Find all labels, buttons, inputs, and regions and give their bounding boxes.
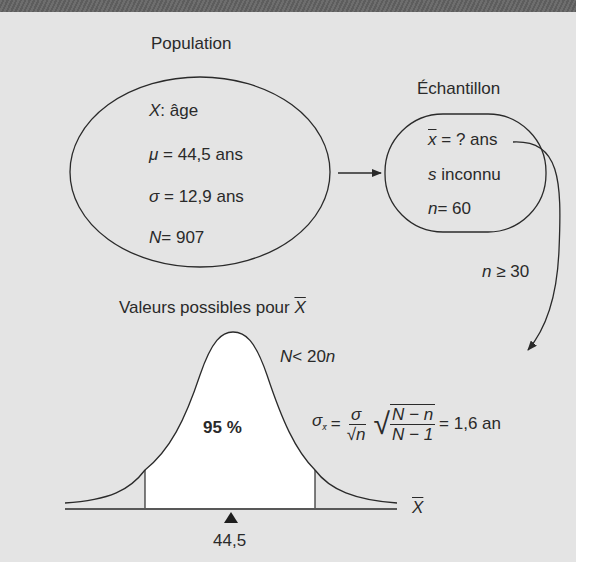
sample-to-distribution-arrow — [513, 142, 560, 350]
confidence-percentage: 95 % — [203, 418, 242, 438]
mu-symbol: μ — [149, 145, 158, 164]
sample-size: n= 60 — [428, 199, 471, 219]
population-size: N= 907 — [149, 228, 204, 248]
population-variable: X: âge — [149, 101, 198, 121]
N-symbol: N — [149, 228, 161, 247]
sigma-value: = 12,9 ans — [164, 187, 244, 206]
sqrt-icon: √ — [347, 425, 356, 444]
sqrt-big-icon: √ — [374, 404, 390, 444]
n-value: = 60 — [437, 199, 471, 218]
variable-symbol: X — [149, 101, 160, 120]
standard-error-formula: σx̄ = σ √n √ N − n N − 1 = 1,6 an — [312, 404, 501, 444]
variable-label: âge — [170, 101, 198, 120]
fraction-2-denominator: N − 1 — [390, 425, 435, 444]
N-value: = 907 — [161, 228, 204, 247]
distribution-title: Valeurs possibles pour X — [119, 298, 306, 318]
formula-fraction-1: σ √n — [345, 405, 368, 444]
population-mean: μ = 44,5 ans — [149, 145, 243, 165]
s-symbol: s — [428, 165, 437, 184]
fraction-2-numerator: N − n — [390, 405, 435, 425]
condition-text: ≥ 30 — [496, 262, 529, 281]
formula-eq: = — [331, 414, 341, 434]
s-value: inconnu — [441, 165, 501, 184]
condition-n-symbol: n — [482, 262, 491, 281]
formula-result: = 1,6 an — [439, 414, 501, 434]
xbar-symbol: x — [428, 130, 437, 149]
formula-lhs: σx̄ — [312, 411, 327, 437]
axis-label: X — [412, 498, 423, 518]
variable-sep: : — [160, 101, 165, 120]
diagram-graphics — [0, 0, 594, 584]
formula-sigma: σ — [312, 411, 322, 430]
mean-value-label: 44,5 — [213, 531, 246, 551]
mean-marker-icon — [224, 512, 238, 523]
distribution-title-symbol: X — [294, 298, 305, 317]
population-size-condition: N< 20n — [280, 347, 335, 367]
formula-sub: x̄ — [322, 422, 327, 432]
sample-sd: s inconnu — [428, 165, 501, 185]
sigma-symbol: σ — [149, 187, 159, 206]
population-sd: σ = 12,9 ans — [149, 187, 244, 207]
fraction-1-den-var: n — [356, 424, 365, 444]
formula-fraction-2: N − n N − 1 — [390, 404, 435, 444]
fraction-1-numerator: σ — [349, 405, 363, 425]
sample-mean: x = ? ans — [428, 130, 497, 150]
xbar-value: = ? ans — [441, 130, 497, 149]
mu-value: = 44,5 ans — [163, 145, 243, 164]
condition-N: N — [280, 347, 292, 366]
distribution-title-text: Valeurs possibles pour — [119, 298, 290, 317]
sample-size-condition: n ≥ 30 — [482, 262, 529, 282]
condition-n: n — [326, 347, 335, 366]
condition-rest: < 20 — [292, 347, 326, 366]
fraction-1-denominator: √n — [345, 425, 368, 444]
sample-title: Échantillon — [417, 79, 500, 99]
population-title: Population — [151, 34, 231, 54]
